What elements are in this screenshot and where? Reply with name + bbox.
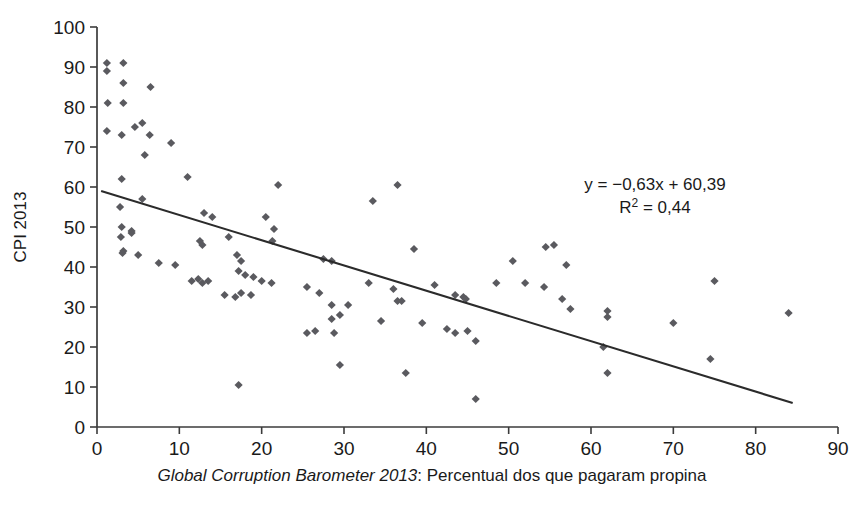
data-point-marker — [303, 329, 311, 337]
scatter-chart-figure: 0102030405060708090100 01020304050607080… — [0, 0, 864, 517]
data-point-marker — [336, 311, 344, 319]
data-point-marker — [558, 295, 566, 303]
data-point-marker — [183, 173, 191, 181]
data-point-marker — [119, 59, 127, 67]
data-point-marker — [315, 289, 323, 297]
data-point-marker — [116, 203, 124, 211]
data-point-marker — [171, 261, 179, 269]
data-point-marker — [167, 139, 175, 147]
x-axis-tick-group: 0102030405060708090 — [92, 427, 849, 459]
x-tick-label: 0 — [92, 438, 103, 459]
x-tick-label: 40 — [416, 438, 437, 459]
plot-canvas: 0102030405060708090100 01020304050607080… — [0, 0, 864, 517]
data-point-marker — [472, 337, 480, 345]
data-point-marker — [131, 123, 139, 131]
x-tick-label: 10 — [169, 438, 190, 459]
data-point-marker — [247, 291, 255, 299]
data-point-marker — [509, 257, 517, 265]
data-point-marker — [262, 213, 270, 221]
data-point-marker — [328, 315, 336, 323]
data-point-marker — [103, 67, 111, 75]
data-point-marker — [267, 279, 275, 287]
data-point-marker — [472, 395, 480, 403]
y-axis-tick-group: 0102030405060708090100 — [53, 17, 97, 438]
data-point-marker — [118, 175, 126, 183]
x-tick-label: 70 — [663, 438, 684, 459]
data-point-marker — [235, 267, 243, 275]
y-tick-label: 20 — [64, 337, 85, 358]
data-point-marker — [117, 233, 125, 241]
y-axis-title: CPI 2013 — [11, 192, 30, 263]
regression-equation-label: y = −0,63x + 60,39 — [584, 175, 725, 194]
data-point-marker — [785, 309, 793, 317]
data-point-marker — [118, 223, 126, 231]
data-point-marker — [566, 305, 574, 313]
data-point-marker — [134, 251, 142, 259]
y-tick-label: 70 — [64, 137, 85, 158]
x-tick-label: 30 — [333, 438, 354, 459]
y-tick-label: 100 — [53, 17, 85, 38]
data-point-marker — [540, 283, 548, 291]
data-point-marker — [188, 277, 196, 285]
data-point-marker — [328, 301, 336, 309]
y-tick-label: 50 — [64, 217, 85, 238]
data-point-marker — [119, 79, 127, 87]
y-tick-label: 0 — [74, 417, 85, 438]
data-point-marker — [249, 273, 257, 281]
data-point-marker — [398, 297, 406, 305]
data-point-marker — [103, 127, 111, 135]
x-axis-title-source: Global Corruption Barometer 2013 — [157, 466, 417, 485]
data-point-marker — [418, 319, 426, 327]
data-point-marker — [492, 279, 500, 287]
data-point-marker — [138, 119, 146, 127]
x-axis-title: Global Corruption Barometer 2013: Percen… — [0, 466, 864, 486]
data-point-marker — [550, 241, 558, 249]
data-point-marker — [562, 261, 570, 269]
data-point-marker — [141, 151, 149, 159]
x-axis-title-rest: : Percentual dos que pagaram propina — [417, 466, 706, 485]
data-point-marker — [389, 285, 397, 293]
data-point-marker — [146, 83, 154, 91]
y-tick-label: 90 — [64, 57, 85, 78]
y-tick-label: 60 — [64, 177, 85, 198]
data-point-marker — [669, 319, 677, 327]
data-point-marker — [603, 369, 611, 377]
data-point-marker — [430, 281, 438, 289]
data-point-marker — [274, 181, 282, 189]
data-point-marker — [451, 329, 459, 337]
data-point-marker — [104, 99, 112, 107]
data-point-marker — [208, 213, 216, 221]
data-point-marker — [103, 59, 111, 67]
data-point-marker — [119, 99, 127, 107]
x-tick-label: 20 — [251, 438, 272, 459]
data-point-marker — [258, 277, 266, 285]
data-point-marker — [410, 245, 418, 253]
y-tick-label: 10 — [64, 377, 85, 398]
data-point-marker — [330, 329, 338, 337]
data-point-marker — [336, 361, 344, 369]
r-squared-label: R2 = 0,44 — [619, 196, 690, 217]
data-point-marker — [344, 301, 352, 309]
data-point-marker — [221, 291, 229, 299]
data-point-marker — [521, 279, 529, 287]
x-tick-label: 90 — [827, 438, 848, 459]
data-point-marker — [270, 225, 278, 233]
data-point-marker — [377, 317, 385, 325]
data-point-marker — [200, 209, 208, 217]
data-point-marker — [365, 279, 373, 287]
data-point-marker — [233, 251, 241, 259]
data-point-marker — [443, 325, 451, 333]
data-point-marker — [402, 369, 410, 377]
data-point-marker — [463, 327, 471, 335]
x-tick-label: 80 — [745, 438, 766, 459]
y-tick-label: 30 — [64, 297, 85, 318]
data-point-marker — [603, 313, 611, 321]
data-point-marker — [241, 271, 249, 279]
data-point-marker — [237, 257, 245, 265]
data-point-marker — [155, 259, 163, 267]
data-point-marker — [542, 243, 550, 251]
x-tick-label: 60 — [580, 438, 601, 459]
data-point-marker — [225, 233, 233, 241]
y-tick-label: 80 — [64, 97, 85, 118]
data-point-marker — [710, 277, 718, 285]
